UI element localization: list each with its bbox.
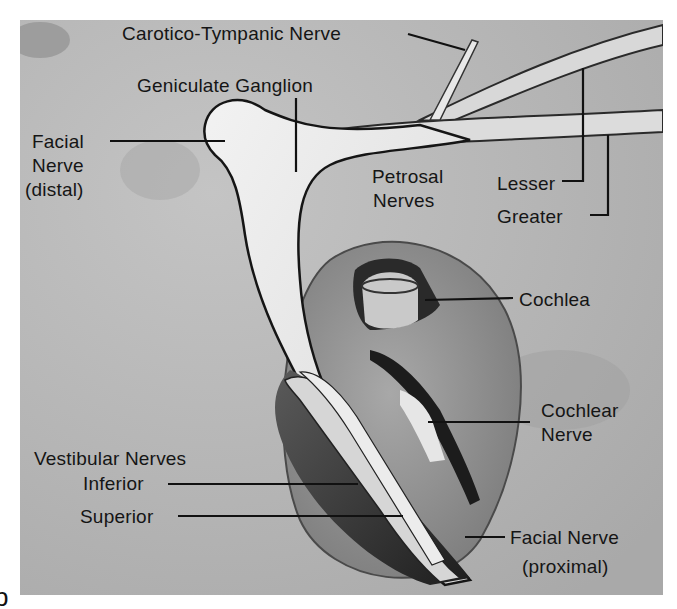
- label-vestibular-nerves: Vestibular Nerves: [34, 448, 186, 470]
- label-inferior-vestibular: Inferior: [83, 473, 144, 495]
- anatomical-figure: Carotico-Tympanic Nerve Geniculate Gangl…: [0, 0, 677, 609]
- label-facial-nerve-distal-line3: (distal): [25, 179, 84, 201]
- label-petrosal-nerves-line1: Petrosal: [372, 166, 443, 188]
- label-cochlear-nerve-line2: Nerve: [541, 424, 593, 446]
- label-facial-nerve-proximal-line1: Facial Nerve: [510, 527, 619, 549]
- label-facial-nerve-distal-line2: Nerve: [32, 155, 84, 177]
- label-superior-vestibular: Superior: [80, 506, 153, 528]
- label-facial-nerve-distal-line1: Facial: [32, 131, 84, 153]
- label-lesser-petrosal: Lesser: [497, 173, 555, 195]
- label-facial-nerve-proximal-line2: (proximal): [522, 556, 608, 578]
- label-carotico-tympanic-nerve: Carotico-Tympanic Nerve: [122, 23, 341, 45]
- label-geniculate-ganglion: Geniculate Ganglion: [137, 75, 313, 97]
- label-cochlear-nerve-line1: Cochlear: [541, 400, 619, 422]
- label-greater-petrosal: Greater: [497, 206, 563, 228]
- panel-letter: b: [0, 582, 8, 609]
- label-cochlea: Cochlea: [519, 289, 590, 311]
- label-petrosal-nerves-line2: Nerves: [373, 190, 434, 212]
